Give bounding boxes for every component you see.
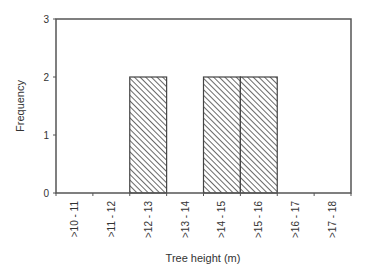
histogram-chart: 0123 >10 - 11>11 - 12>12 - 13>13 - 14>14… — [0, 0, 367, 279]
x-axis: >10 - 11>11 - 12>12 - 13>13 - 14>14 - 15… — [56, 193, 351, 238]
x-tick-label: >10 - 11 — [69, 201, 80, 238]
x-tick-label: >17 - 18 — [327, 201, 338, 238]
y-tick-label: 1 — [43, 130, 49, 141]
histogram-bar — [240, 77, 277, 193]
x-axis-label: Tree height (m) — [166, 252, 241, 264]
bars — [130, 77, 278, 193]
x-tick-label: >14 - 15 — [216, 201, 227, 238]
x-tick-label: >15 - 16 — [253, 201, 264, 238]
y-tick-label: 3 — [43, 14, 49, 25]
y-axis: 0123 — [43, 14, 56, 199]
y-tick-label: 0 — [43, 188, 49, 199]
histogram-bar — [130, 77, 167, 193]
x-tick-label: >16 - 17 — [290, 201, 301, 238]
histogram-bar — [204, 77, 241, 193]
y-tick-label: 2 — [43, 72, 49, 83]
x-tick-label: >11 - 12 — [106, 201, 117, 238]
x-tick-label: >13 - 14 — [180, 201, 191, 238]
x-tick-label: >12 - 13 — [143, 201, 154, 238]
y-axis-label: Frequency — [14, 80, 26, 132]
